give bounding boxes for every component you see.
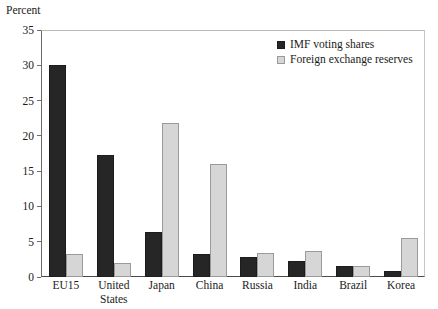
y-axis-tick-label: 15: [23, 163, 35, 179]
x-axis-tick-label: Korea: [377, 279, 425, 309]
chart-title: Percent: [6, 4, 40, 17]
bar[interactable]: [384, 271, 401, 277]
x-axis-tick-label-line: Russia: [234, 279, 282, 293]
x-axis: EU15UnitedStatesJapanChinaRussiaIndiaBra…: [42, 279, 425, 309]
bar[interactable]: [401, 238, 418, 277]
x-axis-tick-label: EU15: [42, 279, 90, 309]
bar[interactable]: [210, 164, 227, 277]
y-axis-tick: 0: [0, 269, 41, 285]
legend-item[interactable]: IMF voting shares: [277, 37, 413, 52]
x-axis-tick-label: Brazil: [329, 279, 377, 309]
y-axis-tick-label: 5: [28, 234, 34, 250]
bar[interactable]: [114, 263, 131, 277]
bar-group: [186, 30, 234, 277]
y-axis-tick: 15: [0, 163, 41, 179]
x-axis-tick-label-line: Brazil: [329, 279, 377, 293]
legend-swatch-icon: [277, 56, 285, 64]
bar[interactable]: [288, 261, 305, 277]
y-axis-tick-label: 10: [23, 198, 35, 214]
y-axis-tick-label: 30: [23, 57, 35, 73]
bar[interactable]: [240, 257, 257, 277]
x-axis-tick-label-line: United: [90, 279, 138, 293]
bar-group: [138, 30, 186, 277]
bar[interactable]: [257, 253, 274, 277]
y-axis: 35302520151050: [0, 22, 41, 285]
x-axis-tick-label: UnitedStates: [90, 279, 138, 309]
x-axis-tick-label-line: Japan: [138, 279, 186, 293]
x-axis-tick-label: Japan: [138, 279, 186, 309]
bar[interactable]: [162, 123, 179, 277]
y-axis-tick: 25: [0, 93, 41, 109]
y-axis-tick: 30: [0, 57, 41, 73]
x-axis-tick-label-line: China: [186, 279, 234, 293]
bar-group: [90, 30, 138, 277]
bar-chart-figure: Percent 35302520151050 EU15UnitedStatesJ…: [0, 0, 438, 309]
y-axis-tick-label: 35: [23, 22, 35, 38]
bar[interactable]: [49, 65, 66, 277]
x-axis-tick-label-line: EU15: [42, 279, 90, 293]
y-axis-tick-label: 0: [28, 269, 34, 285]
y-axis-tick: 10: [0, 198, 41, 214]
y-axis-tick-label: 25: [23, 93, 35, 109]
x-axis-tick-label: Russia: [234, 279, 282, 309]
x-axis-tick-label-line: States: [90, 293, 138, 307]
bar-group: [42, 30, 90, 277]
x-axis-tick-label-line: India: [281, 279, 329, 293]
bar[interactable]: [193, 254, 210, 277]
x-axis-tick-label: China: [186, 279, 234, 309]
bar[interactable]: [145, 232, 162, 277]
legend-item-label: IMF voting shares: [290, 38, 374, 51]
x-axis-tick-label-line: Korea: [377, 279, 425, 293]
bar[interactable]: [305, 251, 322, 277]
y-axis-tick: 20: [0, 128, 41, 144]
y-axis-tick: 35: [0, 22, 41, 38]
legend-item[interactable]: Foreign exchange reserves: [277, 52, 413, 67]
bar[interactable]: [97, 155, 114, 277]
legend-item-label: Foreign exchange reserves: [290, 53, 413, 66]
y-axis-tick-label: 20: [23, 128, 35, 144]
chart-legend: IMF voting sharesForeign exchange reserv…: [274, 34, 417, 70]
bar[interactable]: [353, 266, 370, 277]
bar[interactable]: [66, 254, 83, 277]
bar[interactable]: [336, 266, 353, 277]
x-axis-tick-label: India: [281, 279, 329, 309]
legend-swatch-icon: [277, 41, 285, 49]
y-axis-tick: 5: [0, 234, 41, 250]
